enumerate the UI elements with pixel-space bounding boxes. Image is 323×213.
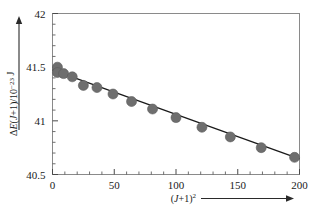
- x-tick-label: 0: [50, 179, 56, 191]
- x-tick-label: 50: [109, 179, 121, 191]
- y-axis-ticks: [53, 14, 59, 175]
- y-tick-label: 42: [35, 8, 46, 20]
- data-point: [148, 104, 158, 114]
- y-tick-label: 41.5: [26, 61, 46, 73]
- x-axis-title-group: (J+1)2: [171, 192, 294, 205]
- x-axis-arrow-head: [286, 195, 294, 201]
- x-axis-ticks: [53, 169, 300, 175]
- data-point: [197, 122, 207, 132]
- y-axis-arrow-head: [16, 16, 22, 24]
- y-tick-label: 41: [35, 115, 46, 127]
- data-point-group: [52, 62, 299, 162]
- x-axis-title: (J+1)2: [171, 192, 197, 205]
- y-axis-title: ΔE(J+1)/10−23 J: [5, 71, 20, 136]
- data-point: [108, 89, 118, 99]
- data-point: [225, 132, 235, 142]
- data-point: [290, 152, 300, 162]
- y-axis-title-group: ΔE(J+1)/10−23 J: [5, 16, 22, 136]
- x-tick-label: 100: [168, 179, 185, 191]
- y-tick-label: 40.5: [26, 169, 46, 181]
- data-point: [171, 113, 181, 123]
- data-point: [256, 143, 266, 153]
- x-axis-tick-labels: 050100150200: [50, 179, 309, 191]
- data-point: [67, 72, 77, 82]
- data-point: [92, 83, 102, 93]
- data-point: [127, 97, 137, 107]
- x-tick-label: 150: [230, 179, 247, 191]
- data-point: [78, 80, 88, 90]
- chart-figure: 050100150200 40.54141.542 ΔE(J+1)/10−23 …: [0, 0, 323, 213]
- y-axis-tick-labels: 40.54141.542: [26, 8, 46, 181]
- x-tick-label: 200: [291, 179, 308, 191]
- scatter-chart: 050100150200 40.54141.542 ΔE(J+1)/10−23 …: [0, 0, 323, 213]
